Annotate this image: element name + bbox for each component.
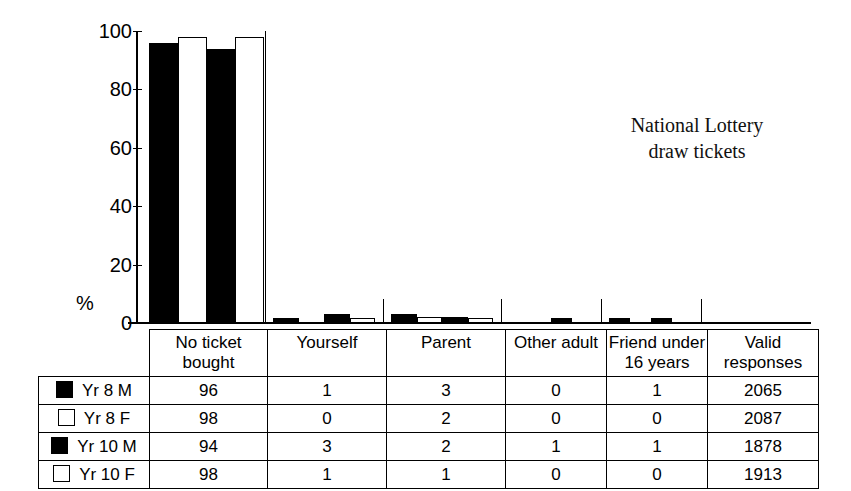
table-row: Yr 10 F9811001913: [39, 461, 819, 489]
legend-cell: Yr 8 F: [39, 405, 150, 433]
table-header-line-2: [268, 353, 386, 373]
table-header-cell: Validresponses: [708, 330, 819, 377]
legend-cell: Yr 10 M: [39, 433, 150, 461]
legend-label: Yr 10 F: [79, 465, 135, 485]
legend-swatch-icon: [53, 465, 70, 482]
data-table-wrap: No ticketboughtYourself Parent Other adu…: [0, 0, 851, 491]
table-header-line-2: responses: [708, 353, 818, 373]
table-cell: 2: [387, 433, 506, 461]
table-cell: 3: [268, 433, 387, 461]
table-row: Yr 8 F9802002087: [39, 405, 819, 433]
table-cell: 2: [387, 405, 506, 433]
table-header-cell: Friend under16 years: [607, 330, 708, 377]
table-cell: 0: [607, 461, 708, 489]
table-header-cell: Parent: [387, 330, 506, 377]
table-header-line-1: No ticket: [150, 333, 267, 353]
table-header-line-2: bought: [150, 353, 267, 373]
table-header-line-1: Valid: [708, 333, 818, 353]
table-header-line-1: Other adult: [506, 333, 606, 353]
legend-swatch-icon: [51, 437, 68, 454]
table-header-line-2: [506, 353, 606, 373]
table-header-cell: Yourself: [268, 330, 387, 377]
table-cell: 98: [150, 405, 268, 433]
table-cell: 1: [607, 433, 708, 461]
table-cell: 0: [506, 405, 607, 433]
table-header-line-1: Yourself: [268, 333, 386, 353]
table-row: Yr 8 M9613012065: [39, 377, 819, 405]
table-cell: 0: [607, 405, 708, 433]
table-row: Yr 10 M9432111878: [39, 433, 819, 461]
legend-cell: Yr 10 F: [39, 461, 150, 489]
legend-cell: Yr 8 M: [39, 377, 150, 405]
table-header-blank: [39, 330, 150, 377]
table-cell: 96: [150, 377, 268, 405]
table-cell: 0: [506, 461, 607, 489]
legend-swatch-icon: [58, 409, 75, 426]
table-cell: 1: [607, 377, 708, 405]
table-cell: 2065: [708, 377, 819, 405]
table-header-line-2: 16 years: [607, 353, 707, 373]
table-header-line-1: Parent: [387, 333, 505, 353]
table-cell: 0: [268, 405, 387, 433]
table-cell: 1878: [708, 433, 819, 461]
table-cell: 1: [387, 461, 506, 489]
table-cell: 94: [150, 433, 268, 461]
chart-figure: 100 80 60 40 20 0 % National Lottery dra…: [0, 0, 851, 491]
table-cell: 1913: [708, 461, 819, 489]
legend-label: Yr 8 M: [82, 381, 132, 401]
legend-swatch-icon: [56, 381, 73, 398]
table-header-cell: No ticketbought: [150, 330, 268, 377]
legend-label: Yr 8 F: [84, 409, 130, 429]
table-cell: 98: [150, 461, 268, 489]
table-cell: 1: [268, 461, 387, 489]
table-cell: 1: [268, 377, 387, 405]
table-cell: 1: [506, 433, 607, 461]
table-header-cell: Other adult: [506, 330, 607, 377]
table-header-row: No ticketboughtYourself Parent Other adu…: [39, 330, 819, 377]
table-header-line-1: Friend under: [607, 333, 707, 353]
table-cell: 2087: [708, 405, 819, 433]
data-table: No ticketboughtYourself Parent Other adu…: [38, 329, 819, 489]
table-cell: 3: [387, 377, 506, 405]
table-cell: 0: [506, 377, 607, 405]
table-header-line-2: [387, 353, 505, 373]
legend-label: Yr 10 M: [77, 437, 137, 457]
